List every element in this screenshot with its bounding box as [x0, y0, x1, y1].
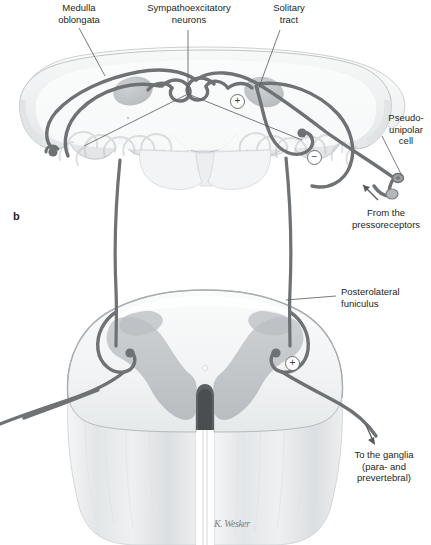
- sign-badge-medulla-excitatory: +: [230, 94, 245, 109]
- artist-signature: K. Wesker: [214, 518, 250, 529]
- label-pseudounipolar-cell: Pseudo- unipolar cell: [382, 112, 430, 147]
- anatomy-figure: Medulla oblongata Sympathoexcitatory neu…: [0, 0, 431, 545]
- label-medulla-oblongata: Medulla oblongata: [32, 2, 126, 25]
- leader-sympathoexcitatory-left: [84, 30, 188, 146]
- sign-badge-cord-excitatory: +: [285, 356, 300, 371]
- label-solitary-tract: Solitary tract: [258, 2, 320, 25]
- label-to-the-ganglia: To the ganglia (para- and prevertebral): [337, 449, 431, 484]
- leader-sympathoexcitatory-right: [188, 94, 302, 140]
- leader-posterolateral-funiculus: [286, 296, 336, 300]
- leader-medulla-oblongata: [79, 28, 105, 76]
- leader-solitary-tract: [258, 30, 280, 90]
- panel-letter-b: b: [13, 210, 20, 222]
- label-sympathoexcitatory-neurons: Sympathoexcitatory neurons: [116, 2, 262, 25]
- label-from-the-pressoreceptors: From the pressoreceptors: [341, 207, 431, 230]
- label-posterolateral-funiculus: Posterolateral funiculus: [341, 286, 431, 309]
- sign-badge-medulla-inhibitory: −: [307, 150, 322, 165]
